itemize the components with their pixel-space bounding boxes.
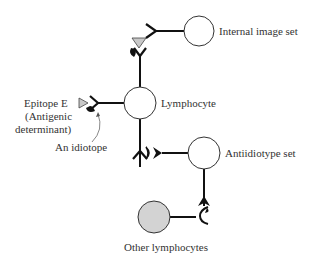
idiotope-receptor-icon xyxy=(86,96,98,112)
epitope-e-triangle-icon xyxy=(79,98,88,108)
lymphocyte-label: Lymphocyte xyxy=(161,97,216,109)
internal-image-label: Internal image set xyxy=(219,25,298,37)
idiotope-pointer-arrow xyxy=(92,114,100,142)
internal-image-cell xyxy=(184,16,214,46)
antiidiotype-label: Antiidiotype set xyxy=(225,147,296,159)
epitope-label-line1: Epitope E xyxy=(24,97,68,109)
epitope-label-line3: determinant) xyxy=(15,123,72,136)
lymphocyte-top-receptor-icon xyxy=(130,48,146,57)
epitope-label-line2: (Antigenic xyxy=(25,110,72,123)
other-lymphocytes-cell xyxy=(138,201,170,233)
idiotope-label: An idiotope xyxy=(55,141,107,153)
internal-image-receptor-icon xyxy=(146,24,156,38)
antiidiotype-cell xyxy=(188,137,220,169)
other-lymphocytes-label: Other lymphocytes xyxy=(124,241,208,253)
arrowhead-icon xyxy=(96,112,100,117)
antiidiotype-junction-receptor-icon xyxy=(133,147,162,159)
other-lymphocytes-receptor-icon xyxy=(198,196,210,224)
epitope-triangle-icon xyxy=(132,38,146,48)
lymphocyte-cell xyxy=(124,87,156,119)
connector-lines xyxy=(98,31,204,217)
idiotype-network-diagram: Internal image set Lymphocyte Antiidioty… xyxy=(0,0,321,258)
